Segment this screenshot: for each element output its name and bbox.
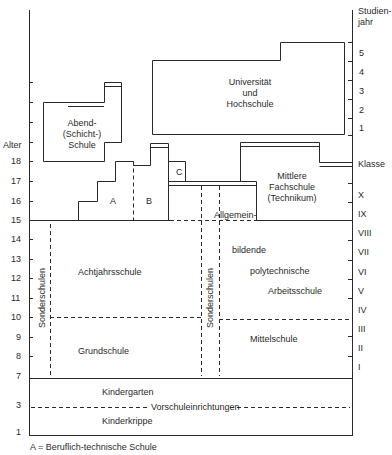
right-ticks xyxy=(348,43,352,357)
studienjahr-axis-title-1: Studien- xyxy=(358,6,392,17)
age-tick-15: 15 xyxy=(11,215,21,226)
age-tick-10: 10 xyxy=(11,312,21,323)
allgemein-label: Allgemein- xyxy=(214,210,257,221)
kinderkrippe-label: Kinderkrippe xyxy=(102,416,153,427)
age-tick-9: 9 xyxy=(16,332,21,343)
age-tick-3: 3 xyxy=(16,400,21,411)
studienjahr-axis-title-2: jahr xyxy=(358,17,373,28)
sonderschulen-mid-label: Sonderschulen xyxy=(205,263,215,333)
klasse-axis-title: Klasse xyxy=(358,159,385,170)
age-tick-1: 1 xyxy=(16,427,21,438)
klasse-tick-v: V xyxy=(358,286,364,297)
vorschule-label: Vorschuleinrichtungen xyxy=(151,402,240,413)
abend-label-1: Abend- xyxy=(52,118,112,129)
mittelschule-label: Mittelschule xyxy=(250,334,298,345)
studienjahr-tick-1: 1 xyxy=(359,123,364,134)
klasse-tick-iii: III xyxy=(358,324,366,335)
studienjahr-tick-3: 3 xyxy=(359,86,364,97)
fachschule-label-2: Fachschule xyxy=(257,182,327,193)
age-tick-8: 8 xyxy=(16,351,21,362)
block-c-label: C xyxy=(176,167,183,178)
block-b xyxy=(134,144,169,221)
block-a xyxy=(79,162,134,221)
age-tick-16: 16 xyxy=(11,196,21,207)
age-tick-14: 14 xyxy=(11,234,21,245)
universitaet-label-1: Universität xyxy=(210,77,290,88)
age-axis-title: Alter xyxy=(3,140,22,151)
age-tick-17: 17 xyxy=(11,176,21,187)
klasse-tick-iv: IV xyxy=(358,305,367,316)
age-tick-12: 12 xyxy=(11,273,21,284)
klasse-tick-vi: VI xyxy=(358,267,367,278)
universitaet-label-3: Hochschule xyxy=(210,99,290,110)
abend-label-3: Schule xyxy=(52,140,112,151)
legend-a-note: A = Beruflich-technische Schule xyxy=(30,442,157,453)
age-tick-11: 11 xyxy=(11,293,20,304)
age-tick-7: 7 xyxy=(16,371,21,382)
klasse-tick-i: I xyxy=(358,362,361,373)
fachschule-label-3: (Technikum) xyxy=(257,193,327,204)
kindergarten-label: Kindergarten xyxy=(102,387,154,398)
fachschule-label-1: Mittlere xyxy=(257,171,327,182)
klasse-tick-ix: IX xyxy=(358,209,367,220)
age-tick-13: 13 xyxy=(11,254,21,265)
block-a-label: A xyxy=(110,196,116,207)
klasse-tick-viii: VIII xyxy=(358,228,372,239)
klasse-tick-vii: VII xyxy=(358,247,369,258)
bildende-label: bildende xyxy=(232,245,266,256)
studienjahr-tick-5: 5 xyxy=(359,48,364,59)
klasse-tick-ii: II xyxy=(358,343,363,354)
achtjahrsschule-label: Achtjahrsschule xyxy=(78,267,142,278)
age-tick-18: 18 xyxy=(11,156,21,167)
universitaet-label-2: und xyxy=(210,88,290,99)
abend-label-2: (Schicht-) xyxy=(52,129,112,140)
studienjahr-tick-4: 4 xyxy=(359,67,364,78)
studienjahr-tick-2: 2 xyxy=(359,105,364,116)
block-b-label: B xyxy=(146,196,152,207)
sonderschulen-left-label: Sonderschulen xyxy=(37,263,47,333)
klasse-tick-x: X xyxy=(358,190,364,201)
arbeitsschule-label: Arbeitsschule xyxy=(268,286,322,297)
polytechnische-label: polytechnische xyxy=(250,266,310,277)
grundschule-label: Grundschule xyxy=(78,346,129,357)
